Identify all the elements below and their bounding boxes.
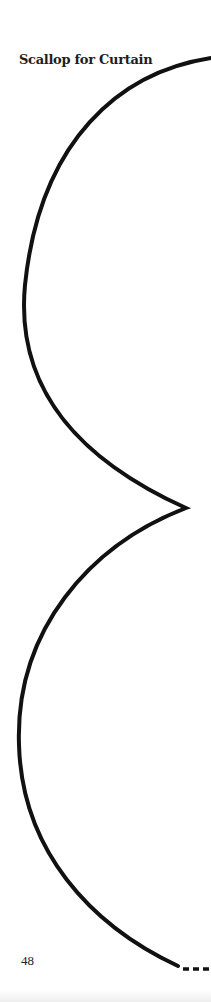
- page-edge-shadow: [0, 990, 211, 1002]
- page-number: 48: [21, 953, 34, 969]
- scallop-curve: [19, 58, 211, 966]
- scallop-pattern-outline: [0, 0, 211, 1002]
